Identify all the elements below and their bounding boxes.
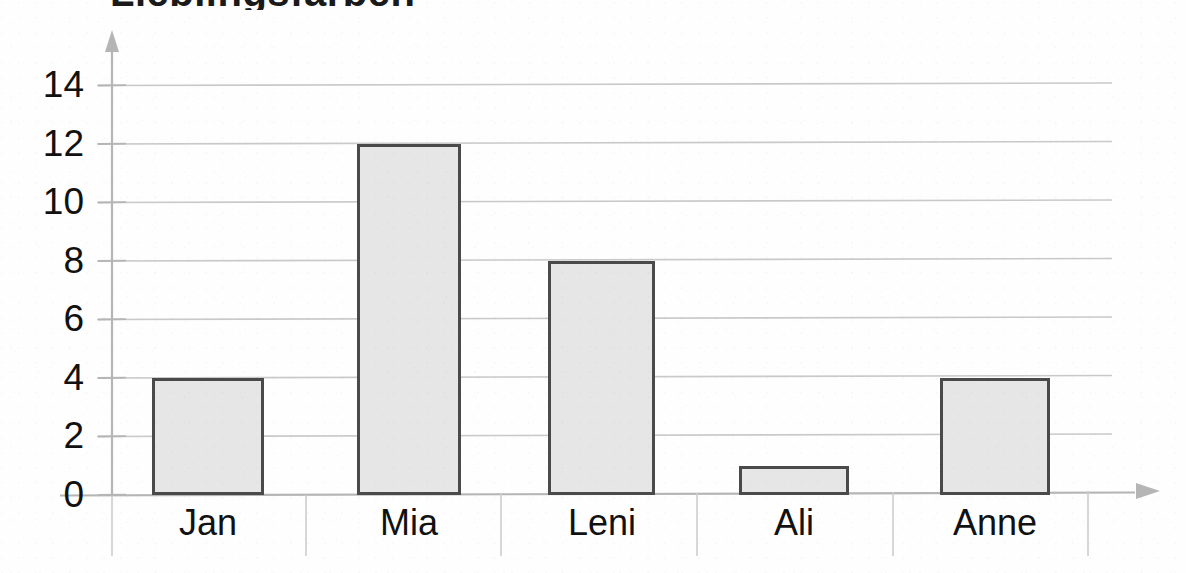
xtick-label-mia: Mia [349,505,469,541]
ytick-label-14: 14 [22,66,84,103]
ytick-label-4: 4 [22,359,84,396]
bar-ali [739,466,849,495]
ytick-label-8: 8 [22,242,84,279]
xtick-label-jan: Jan [148,505,268,541]
ytick-label-0: 0 [22,476,84,513]
bar-chart-figure: Lieblingsfarben [0,0,1186,573]
ytick-label-10: 10 [22,183,84,220]
y-axis-line [105,30,119,495]
bar-anne [940,378,1050,495]
xtick-label-leni: Leni [542,505,662,541]
gridline-12 [97,142,1112,145]
x-axis-arrow-icon [1136,483,1160,499]
ytick-label-12: 12 [22,125,84,162]
y-axis-arrow-icon [105,30,119,52]
xtick-label-ali: Ali [734,505,854,541]
ytick-label-2: 2 [22,417,84,454]
bar-jan [152,378,264,495]
bar-leni [548,261,655,495]
gridline-10 [97,200,1112,203]
xtick-label-anne: Anne [935,505,1055,541]
gridline-14 [97,83,1112,86]
bar-mia [357,144,461,495]
ytick-label-6: 6 [22,300,84,337]
